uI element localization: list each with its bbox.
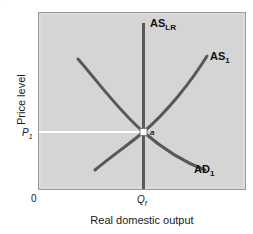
x-tick-label-qf: Qf [137, 194, 148, 207]
curve-label-ad-1-sub: 1 [210, 169, 215, 178]
curve-label-as-1-sub: 1 [225, 56, 230, 65]
equilibrium-point-marker [140, 129, 147, 136]
x-axis-title: Real domestic output [90, 214, 193, 226]
chart-svg: a ASLR AS1 AD1 Price level P1 0 Qf Real … [0, 0, 253, 234]
y-tick-label-p1: P1 [22, 127, 33, 140]
y-axis-title: Price level [15, 74, 27, 125]
ad-as-diagram-figure: · a ASLR AS1 AD1 Price level [0, 0, 253, 234]
y-tick-label-p1-sub: 1 [29, 133, 33, 140]
equilibrium-point-label: a [150, 128, 155, 137]
origin-label: 0 [31, 193, 37, 204]
curve-label-ad-1-main: AD [194, 163, 210, 175]
curve-label-as-lr-sub: LR [165, 23, 176, 32]
curve-label-as-lr-main: AS [150, 17, 165, 29]
x-tick-label-qf-sub: f [145, 200, 148, 207]
corner-mark: · [3, 2, 9, 11]
curve-label-as-1-main: AS [210, 50, 225, 62]
